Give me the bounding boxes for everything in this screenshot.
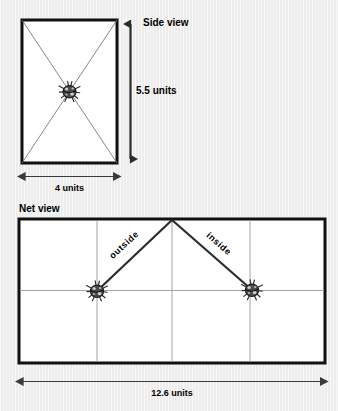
side-view-group: Side view 5.5 units 4 units: [22, 17, 189, 193]
side-view-width-label: 4 units: [55, 183, 84, 193]
net-view-group: Net view outside inside 12.6 units: [19, 203, 325, 398]
geometry-diagram: Side view 5.5 units 4 units Net view out…: [0, 0, 338, 411]
net-view-title: Net view: [19, 203, 60, 214]
side-view-title: Side view: [143, 17, 189, 28]
side-view-height-label: 5.5 units: [136, 85, 177, 96]
net-view-width-label: 12.6 units: [151, 388, 193, 398]
